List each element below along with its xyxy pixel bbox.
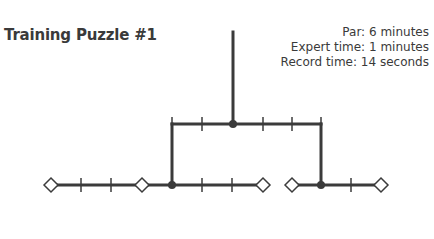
puzzle-board[interactable] [0, 0, 434, 239]
endpoint-diamond-icon[interactable] [374, 178, 388, 192]
endpoint-diamond-icon[interactable] [285, 178, 299, 192]
junction-node [168, 181, 176, 189]
junction-node [229, 120, 237, 128]
endpoint-diamond-icon[interactable] [135, 178, 149, 192]
endpoint-diamond-icon[interactable] [44, 178, 58, 192]
endpoint-diamond-icon[interactable] [256, 178, 270, 192]
junction-node [317, 181, 325, 189]
